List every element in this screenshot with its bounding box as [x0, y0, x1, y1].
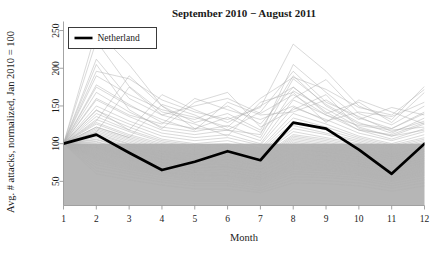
x-tick-label: 9 — [324, 214, 329, 224]
y-tick-label: 250 — [51, 23, 61, 37]
x-axis-label: Month — [230, 232, 259, 243]
y-axis-label: Avg. # attacks, normalized, Jan 2010 = 1… — [5, 31, 16, 213]
y-tick-label: 100 — [51, 136, 61, 151]
x-tick-label: 5 — [192, 214, 197, 224]
x-tick-label: 1 — [61, 214, 66, 224]
y-tick-label: 50 — [51, 176, 61, 186]
chart-title: September 2010 − August 2011 — [172, 7, 316, 19]
x-tick-label: 3 — [127, 214, 132, 224]
chart-legend: Netherland — [69, 28, 157, 49]
y-tick-label: 200 — [51, 61, 61, 76]
x-tick-label: 6 — [225, 214, 230, 224]
plot-area: 50100150200250123456789101112 — [51, 22, 430, 224]
x-tick-label: 11 — [387, 214, 396, 224]
x-tick-label: 12 — [420, 214, 430, 224]
x-tick-label: 4 — [160, 214, 165, 224]
legend-label: Netherland — [98, 33, 140, 43]
y-tick-label: 150 — [51, 99, 61, 114]
x-tick-label: 10 — [354, 214, 364, 224]
chart-figure: 50100150200250123456789101112 September … — [0, 0, 446, 265]
x-tick-label: 2 — [94, 214, 99, 224]
x-tick-label: 8 — [291, 214, 296, 224]
x-tick-label: 7 — [258, 214, 263, 224]
